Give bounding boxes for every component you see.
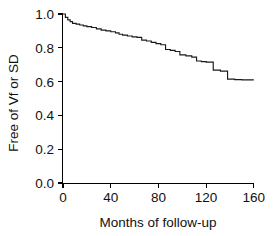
km-survival-chart: 1.0 0.8 0.6 0.4 0.2 0.0 0 40 80 120 160 …: [0, 0, 275, 236]
y-tick-label-6: 0.0: [35, 176, 54, 191]
x-tick-label-3: 80: [151, 190, 166, 205]
x-tick-label-2: 40: [103, 190, 118, 205]
km-step-curve: [63, 14, 254, 80]
x-tick-label-5: 160: [243, 190, 266, 205]
x-axis-title: Months of follow-up: [99, 215, 216, 230]
x-tick-label-1: 0: [59, 190, 67, 205]
y-axis-title: Free of Vf or SD: [6, 54, 21, 152]
x-axis-ticks: [63, 184, 254, 189]
y-tick-label-2: 0.8: [35, 41, 54, 56]
y-tick-label-3: 0.6: [35, 75, 54, 90]
y-tick-label-1: 1.0: [35, 7, 54, 22]
chart-canvas: 1.0 0.8 0.6 0.4 0.2 0.0 0 40 80 120 160 …: [0, 0, 275, 236]
y-axis-ticks: [58, 14, 63, 183]
y-tick-label-5: 0.2: [35, 142, 54, 157]
x-tick-label-4: 120: [195, 190, 218, 205]
y-tick-label-4: 0.4: [35, 108, 54, 123]
